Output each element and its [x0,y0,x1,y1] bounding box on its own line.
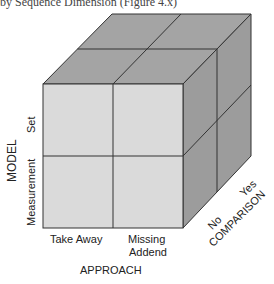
approach-level-addend: Addend [129,247,167,258]
model-level-measurement: Measurement [26,159,37,226]
approach-level-missing: Missing [128,234,165,245]
approach-level-take-away: Take Away [50,234,102,245]
approach-axis-title: APPROACH [80,265,142,276]
model-level-set: Set [26,116,37,133]
model-axis-title: MODEL [6,139,18,182]
